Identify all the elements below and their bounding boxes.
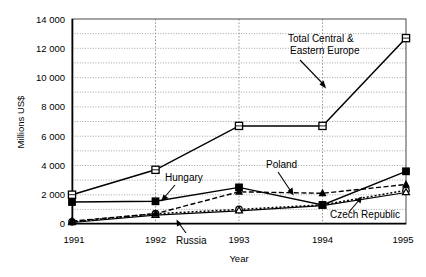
x-tick-label: 1993 [228, 234, 249, 245]
y-tick-label: 2 000 [41, 189, 65, 200]
y-tick-label: 8 000 [41, 101, 65, 112]
x-axis-title: Year [229, 253, 248, 264]
x-axis-tick-labels: 1991 1992 1993 1994 1995 [63, 234, 413, 245]
chart-container: 14 000 12 000 10 000 8 000 6 000 4 000 2… [0, 0, 426, 277]
annotation-total-line1: Total Central & [288, 33, 354, 44]
x-tick-label: 1994 [312, 234, 333, 245]
annotation-russia-label: Russia [176, 235, 207, 246]
annotation-poland-label: Poland [266, 159, 297, 170]
y-tick-label: 0 [60, 218, 65, 229]
y-axis-title: Millions US$ [15, 95, 26, 149]
y-tick-label: 14 000 [36, 14, 65, 25]
x-tick-label: 1991 [63, 234, 84, 245]
y-tick-label: 6 000 [41, 131, 65, 142]
x-tick-label: 1995 [392, 234, 413, 245]
y-tick-label: 12 000 [36, 43, 65, 54]
y-tick-label: 4 000 [41, 160, 65, 171]
x-tick-label: 1992 [145, 234, 166, 245]
annotation-czech-label: Czech Republic [330, 209, 400, 220]
y-axis-tick-labels: 14 000 12 000 10 000 8 000 6 000 4 000 2… [36, 14, 65, 230]
annotation-total-line2: Eastern Europe [290, 45, 360, 56]
y-tick-label: 10 000 [36, 72, 65, 83]
annotation-hungary-label: Hungary [165, 172, 203, 183]
line-chart: 14 000 12 000 10 000 8 000 6 000 4 000 2… [0, 0, 426, 277]
